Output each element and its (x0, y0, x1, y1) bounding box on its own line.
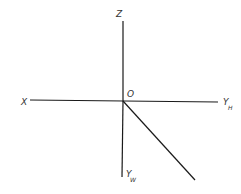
origin-label: O (127, 89, 134, 99)
yw-axis-label: Y W (126, 169, 137, 183)
projection-axes-diagram: Z O X Y H Y W (0, 0, 241, 194)
yh-axis-label: Y H (223, 97, 233, 111)
x-axis-label: X (20, 97, 28, 107)
z-axis-label: Z (115, 9, 123, 19)
yh-axis-label-subscript: H (228, 104, 233, 111)
yw-axis-label-subscript: W (130, 176, 137, 183)
diagonal-45-line (123, 101, 195, 180)
yw-axis-line (122, 101, 123, 177)
